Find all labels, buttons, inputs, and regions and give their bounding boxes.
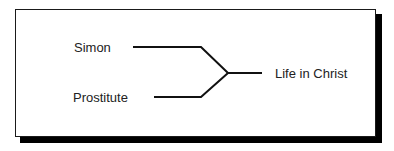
input-label-simon: Simon [74, 41, 111, 54]
connector-prostitute [154, 73, 228, 97]
connector-simon [133, 47, 228, 73]
input-label-prostitute: Prostitute [73, 91, 128, 104]
output-label: Life in Christ [275, 67, 347, 80]
